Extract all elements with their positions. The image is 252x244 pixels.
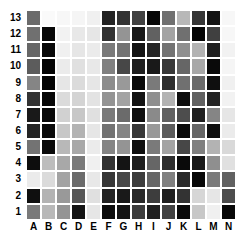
heatmap-cell[interactable] xyxy=(26,188,41,204)
heatmap-cell[interactable] xyxy=(101,26,116,42)
heatmap-cell[interactable] xyxy=(176,58,191,74)
heatmap-cell[interactable] xyxy=(41,91,56,107)
heatmap-cell[interactable] xyxy=(221,155,236,171)
heatmap-cell[interactable] xyxy=(56,139,71,155)
heatmap-cell[interactable] xyxy=(131,42,146,58)
heatmap-cell[interactable] xyxy=(191,107,206,123)
heatmap-cell[interactable] xyxy=(221,42,236,58)
heatmap-cell[interactable] xyxy=(71,155,86,171)
heatmap-cell[interactable] xyxy=(71,107,86,123)
heatmap-cell[interactable] xyxy=(86,188,101,204)
heatmap-cell[interactable] xyxy=(41,139,56,155)
heatmap-cell[interactable] xyxy=(191,188,206,204)
heatmap-cell[interactable] xyxy=(86,75,101,91)
heatmap-cell[interactable] xyxy=(116,10,131,26)
heatmap-cell[interactable] xyxy=(146,204,161,220)
heatmap-cell[interactable] xyxy=(56,10,71,26)
heatmap-cell[interactable] xyxy=(146,107,161,123)
heatmap-cell[interactable] xyxy=(206,204,221,220)
heatmap-cell[interactable] xyxy=(131,188,146,204)
heatmap-cell[interactable] xyxy=(26,26,41,42)
heatmap-cell[interactable] xyxy=(131,139,146,155)
heatmap-cell[interactable] xyxy=(146,91,161,107)
heatmap-cell[interactable] xyxy=(56,75,71,91)
heatmap-cell[interactable] xyxy=(101,204,116,220)
heatmap-cell[interactable] xyxy=(191,171,206,187)
heatmap-cell[interactable] xyxy=(116,91,131,107)
heatmap-cell[interactable] xyxy=(56,107,71,123)
heatmap-cell[interactable] xyxy=(146,26,161,42)
heatmap-cell[interactable] xyxy=(131,58,146,74)
heatmap-cell[interactable] xyxy=(41,123,56,139)
heatmap-cell[interactable] xyxy=(161,42,176,58)
heatmap-cell[interactable] xyxy=(191,42,206,58)
heatmap-cell[interactable] xyxy=(206,155,221,171)
heatmap-cell[interactable] xyxy=(116,58,131,74)
heatmap-cell[interactable] xyxy=(41,171,56,187)
heatmap-cell[interactable] xyxy=(56,58,71,74)
heatmap-cell[interactable] xyxy=(176,123,191,139)
heatmap-cell[interactable] xyxy=(191,204,206,220)
heatmap-cell[interactable] xyxy=(71,58,86,74)
heatmap-cell[interactable] xyxy=(41,155,56,171)
heatmap-cell[interactable] xyxy=(101,171,116,187)
heatmap-cell[interactable] xyxy=(41,75,56,91)
heatmap-cell[interactable] xyxy=(71,75,86,91)
heatmap-cell[interactable] xyxy=(56,26,71,42)
heatmap-cell[interactable] xyxy=(26,139,41,155)
heatmap-cell[interactable] xyxy=(131,107,146,123)
heatmap-cell[interactable] xyxy=(176,91,191,107)
heatmap-cell[interactable] xyxy=(41,204,56,220)
heatmap-cell[interactable] xyxy=(86,171,101,187)
heatmap-cell[interactable] xyxy=(221,58,236,74)
heatmap-cell[interactable] xyxy=(101,188,116,204)
heatmap-cell[interactable] xyxy=(101,107,116,123)
heatmap-cell[interactable] xyxy=(26,91,41,107)
heatmap-cell[interactable] xyxy=(206,75,221,91)
heatmap-cell[interactable] xyxy=(131,155,146,171)
heatmap-cell[interactable] xyxy=(161,123,176,139)
heatmap-cell[interactable] xyxy=(86,139,101,155)
heatmap-cell[interactable] xyxy=(56,91,71,107)
heatmap-cell[interactable] xyxy=(41,10,56,26)
heatmap-cell[interactable] xyxy=(26,155,41,171)
heatmap-plot-area[interactable] xyxy=(26,10,236,220)
heatmap-cell[interactable] xyxy=(206,10,221,26)
heatmap-cell[interactable] xyxy=(131,91,146,107)
heatmap-cell[interactable] xyxy=(131,204,146,220)
heatmap-cell[interactable] xyxy=(101,10,116,26)
heatmap-cell[interactable] xyxy=(71,171,86,187)
heatmap-cell[interactable] xyxy=(101,42,116,58)
heatmap-cell[interactable] xyxy=(116,171,131,187)
heatmap-cell[interactable] xyxy=(221,75,236,91)
heatmap-cell[interactable] xyxy=(206,107,221,123)
heatmap-cell[interactable] xyxy=(41,42,56,58)
heatmap-cell[interactable] xyxy=(56,171,71,187)
heatmap-cell[interactable] xyxy=(116,123,131,139)
heatmap-cell[interactable] xyxy=(26,10,41,26)
heatmap-cell[interactable] xyxy=(86,26,101,42)
heatmap-cell[interactable] xyxy=(101,58,116,74)
heatmap-cell[interactable] xyxy=(56,42,71,58)
heatmap-cell[interactable] xyxy=(71,26,86,42)
heatmap-cell[interactable] xyxy=(116,75,131,91)
heatmap-cell[interactable] xyxy=(26,75,41,91)
heatmap-cell[interactable] xyxy=(116,155,131,171)
heatmap-cell[interactable] xyxy=(206,26,221,42)
heatmap-cell[interactable] xyxy=(116,204,131,220)
heatmap-cell[interactable] xyxy=(191,10,206,26)
heatmap-cell[interactable] xyxy=(71,204,86,220)
heatmap-cell[interactable] xyxy=(146,188,161,204)
heatmap-cell[interactable] xyxy=(26,171,41,187)
heatmap-cell[interactable] xyxy=(71,123,86,139)
heatmap-cell[interactable] xyxy=(176,10,191,26)
heatmap-cell[interactable] xyxy=(131,26,146,42)
heatmap-cell[interactable] xyxy=(191,91,206,107)
heatmap-cell[interactable] xyxy=(71,10,86,26)
heatmap-cell[interactable] xyxy=(191,139,206,155)
heatmap-cell[interactable] xyxy=(86,155,101,171)
heatmap-cell[interactable] xyxy=(176,139,191,155)
heatmap-cell[interactable] xyxy=(116,107,131,123)
heatmap-cell[interactable] xyxy=(221,139,236,155)
heatmap-cell[interactable] xyxy=(191,58,206,74)
